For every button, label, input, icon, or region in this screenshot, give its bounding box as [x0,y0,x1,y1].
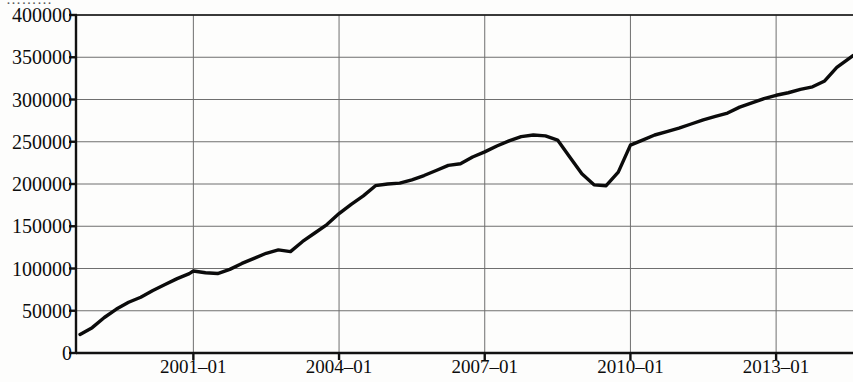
gridlines [76,15,853,353]
x-tick-label: 2007–01 [451,357,518,376]
x-tick-label: 2004–01 [306,357,373,376]
y-tick-label: 400000 [0,5,72,25]
x-tick-label: 2010–01 [597,357,664,376]
y-tick-label: 100000 [0,259,72,279]
y-tick-label: 250000 [0,132,72,152]
x-tick-label: 2013–01 [743,357,810,376]
chart-figure: ……… 050000100000150000200000250000300000… [0,0,853,382]
y-tick-label: 150000 [0,216,72,236]
y-tick-label: 350000 [0,47,72,67]
line-chart-plot [0,0,853,382]
x-tick-label: 2001–01 [160,357,227,376]
data-series-line [80,56,853,335]
y-tick-label: 0 [0,343,72,363]
y-tick-label: 50000 [0,301,72,321]
y-tick-label: 200000 [0,174,72,194]
tick-marks [69,15,776,360]
y-tick-label: 300000 [0,90,72,110]
